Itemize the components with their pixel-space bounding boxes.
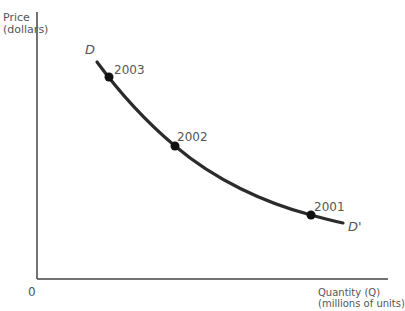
point-label-2003: 2003 bbox=[114, 64, 145, 76]
origin-label: 0 bbox=[28, 286, 36, 298]
demand-curve bbox=[97, 62, 343, 223]
point-2003 bbox=[105, 73, 114, 82]
y-axis-label-line2: (dollars) bbox=[3, 24, 48, 36]
curve-start-label: D bbox=[85, 44, 95, 56]
point-label-2001: 2001 bbox=[314, 201, 345, 213]
x-axis-label-line2: (millions of units) bbox=[318, 298, 405, 310]
point-label-2002: 2002 bbox=[177, 131, 208, 143]
curve-end-label: D' bbox=[348, 221, 362, 233]
